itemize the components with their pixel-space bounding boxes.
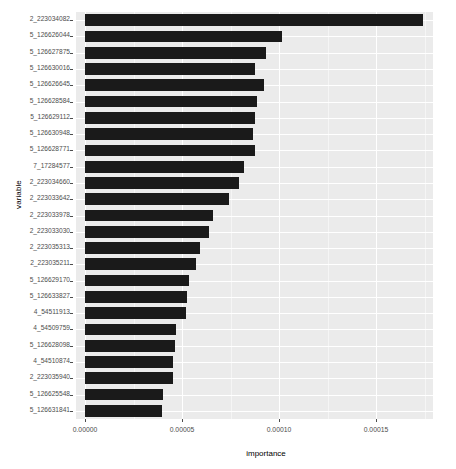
y-axis-tick-label: 5_126625548 (0, 390, 70, 397)
x-axis-tick-label: 0.00005 (152, 426, 212, 433)
y-axis-tick-mark (70, 36, 73, 37)
y-axis-tick-mark (70, 118, 73, 119)
bar (85, 372, 173, 384)
y-axis-tick-label: 4_54511913 (0, 308, 70, 315)
y-axis-tick-label: 4_54509759 (0, 324, 70, 331)
y-axis-tick-mark (70, 20, 73, 21)
y-axis-tick-label: 2_223034082 (0, 15, 70, 22)
x-axis-tick-label: 0.00015 (346, 426, 406, 433)
y-axis-tick-label: 5_126626044 (0, 31, 70, 38)
bar (85, 161, 244, 173)
y-axis-tick-label: 5_126628584 (0, 97, 70, 104)
y-axis-tick-mark (70, 313, 73, 314)
y-axis-tick-mark (70, 150, 73, 151)
bar (85, 177, 239, 189)
y-axis-tick-mark (70, 232, 73, 233)
bar (85, 193, 229, 205)
y-axis-tick-mark (70, 183, 73, 184)
x-axis-tick-mark (182, 419, 183, 422)
bar (85, 96, 257, 108)
bar (85, 389, 163, 401)
bar (85, 31, 282, 43)
bar (85, 128, 253, 140)
y-axis-tick-label: 5_126631841 (0, 406, 70, 413)
y-axis-tick-mark (70, 69, 73, 70)
x-axis-tick-labels: 0.000000.000050.000100.00015 (76, 419, 433, 443)
bar (85, 405, 162, 417)
y-axis-tick-mark (70, 248, 73, 249)
y-axis-tick-label: 5_126630948 (0, 129, 70, 136)
bar (85, 291, 187, 303)
y-axis-tick-labels: 2_2230340825_1266260445_1266278755_12663… (0, 12, 70, 419)
y-axis-tick-mark (70, 167, 73, 168)
x-axis-tick-mark (279, 419, 280, 422)
y-axis-tick-label: 5_126628771 (0, 145, 70, 152)
y-axis-tick-label: 2_223033030 (0, 227, 70, 234)
x-axis-title: importance (76, 449, 456, 458)
y-axis-tick-mark (70, 199, 73, 200)
y-axis-tick-label: 5_126629170 (0, 276, 70, 283)
y-axis-tick-label: 5_126628098 (0, 341, 70, 348)
bar (85, 63, 255, 75)
bar (85, 79, 264, 91)
y-axis-tick-label: 5_126633827 (0, 292, 70, 299)
y-axis-tick-mark (70, 411, 73, 412)
bar (85, 242, 200, 254)
y-axis-tick-label: 7_17284577 (0, 162, 70, 169)
y-axis-tick-mark (70, 53, 73, 54)
bar (85, 340, 175, 352)
y-axis-tick-label: 5_126627875 (0, 48, 70, 55)
bar (85, 356, 173, 368)
x-axis-tick-mark (376, 419, 377, 422)
importance-bar-chart: variable 2_2230340825_1266260445_1266278… (0, 0, 456, 469)
y-axis-tick-mark (70, 395, 73, 396)
bar (85, 307, 186, 319)
y-axis-tick-mark (70, 297, 73, 298)
x-axis-tick-label: 0.00000 (55, 426, 115, 433)
bar (85, 47, 266, 59)
y-axis-tick-mark (70, 378, 73, 379)
y-axis-tick-label: 5_126630016 (0, 64, 70, 71)
bar (85, 210, 213, 222)
y-axis-tick-label: 2_223033642 (0, 194, 70, 201)
y-axis-tick-mark (70, 102, 73, 103)
y-axis-tick-mark (70, 346, 73, 347)
bar (85, 324, 176, 336)
y-axis-tick-mark (70, 329, 73, 330)
bar (85, 226, 209, 238)
y-axis-tick-mark (70, 362, 73, 363)
y-axis-tick-mark (70, 85, 73, 86)
y-axis-tick-label: 5_126626645 (0, 80, 70, 87)
y-axis-tick-label: 5_126629112 (0, 113, 70, 120)
y-axis-tick-label: 4_54510874 (0, 357, 70, 364)
y-axis-tick-label: 2_223035940 (0, 373, 70, 380)
y-axis-tick-mark (70, 264, 73, 265)
bar (85, 112, 255, 124)
plot-panel (76, 12, 433, 419)
bar (85, 258, 196, 270)
y-axis-tick-mark (70, 216, 73, 217)
y-axis-tick-label: 2_223035313 (0, 243, 70, 250)
y-axis-tick-label: 2_223035211 (0, 259, 70, 266)
x-axis-tick-mark (85, 419, 86, 422)
y-axis-tick-mark (70, 281, 73, 282)
bar (85, 275, 189, 287)
y-axis-tick-mark (70, 134, 73, 135)
bar (85, 145, 255, 157)
x-axis-tick-label: 0.00010 (249, 426, 309, 433)
y-axis-tick-label: 2_223034660 (0, 178, 70, 185)
y-axis-tick-label: 2_223033978 (0, 211, 70, 218)
bar (85, 14, 423, 26)
